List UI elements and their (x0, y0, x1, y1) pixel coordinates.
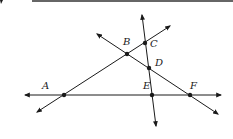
points-group: ABCDEF (41, 36, 198, 97)
point-e (150, 93, 154, 97)
geometry-diagram: ABCDEF (0, 0, 233, 139)
point-a (62, 93, 66, 97)
lines-group (25, 15, 221, 126)
label-a: A (41, 80, 49, 91)
label-c: C (150, 38, 158, 49)
point-c (143, 41, 147, 45)
point-b (125, 52, 129, 56)
label-d: D (154, 57, 163, 68)
point-d (147, 66, 151, 70)
line-CDE (142, 15, 156, 126)
point-f (188, 93, 192, 97)
label-b: B (122, 36, 130, 47)
corner-mark (0, 0, 3, 4)
label-e: E (142, 80, 151, 91)
label-f: F (189, 80, 198, 91)
